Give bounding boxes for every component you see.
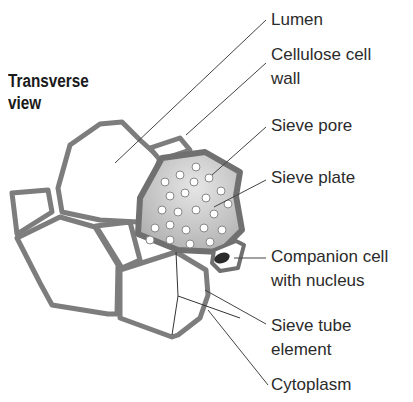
label-cell-wall-1: Cellulose cell [271, 44, 371, 66]
label-sieve-tube-2: element [271, 339, 331, 361]
sieve-tube-cell [120, 252, 208, 337]
title-line1: Transverse [8, 70, 89, 92]
label-sieve-plate: Sieve plate [271, 167, 355, 189]
label-lumen: Lumen [271, 9, 323, 31]
label-sieve-pore: Sieve pore [271, 115, 352, 137]
label-sieve-tube-1: Sieve tube [271, 315, 351, 337]
label-companion-2: with nucleus [271, 270, 365, 292]
label-cytoplasm: Cytoplasm [271, 374, 351, 396]
label-cell-wall-2: wall [271, 68, 300, 90]
label-companion-1: Companion cell [271, 246, 388, 268]
title-line2: view [8, 92, 41, 114]
